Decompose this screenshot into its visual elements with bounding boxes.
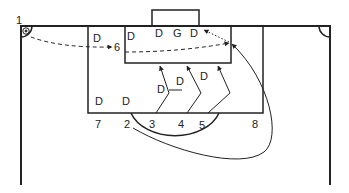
run-4-path: [187, 66, 201, 113]
defender-label: D: [93, 32, 101, 44]
goal: [152, 10, 199, 26]
defender-label: D: [157, 83, 165, 95]
defender-label: D: [190, 27, 198, 39]
player-4-label: 4: [178, 118, 184, 130]
cross-to-far-post-path: [125, 43, 229, 52]
goalkeeper-label: G: [173, 27, 182, 39]
defender-label: D: [155, 27, 163, 39]
player-3-label: 3: [149, 118, 155, 130]
defender-label: D: [176, 75, 184, 87]
player-7-label: 7: [95, 118, 101, 130]
corner-arc-right: [319, 26, 330, 37]
flick-to-goal-path: [204, 30, 229, 42]
player-6-label: 6: [114, 41, 120, 53]
player-5-label: 5: [199, 119, 205, 131]
defender-label: D: [122, 95, 130, 107]
penalty-area: [88, 26, 263, 113]
run-2-loop-path: [133, 44, 272, 159]
movement-paths: [31, 30, 272, 159]
defender-label: D: [127, 30, 135, 42]
player-2-label: 2: [124, 118, 130, 130]
run-5-path: [208, 66, 230, 113]
soccer-diagram: 1 6 7 2 3 4 5 8 D D D G D D D D D D: [0, 0, 349, 193]
penalty-arc: [131, 113, 219, 136]
player-8-label: 8: [252, 118, 258, 130]
player-1-label: 1: [16, 14, 22, 26]
defender-label: D: [200, 70, 208, 82]
defender-label: D: [95, 95, 103, 107]
